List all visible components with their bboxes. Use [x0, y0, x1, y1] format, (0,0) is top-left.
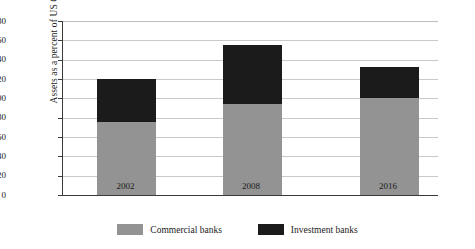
- bar-series-container: [63, 21, 438, 195]
- bar-group: [223, 21, 282, 195]
- x-axis-tick-label: 2016: [348, 181, 428, 191]
- y-axis-tick-label: 40: [0, 152, 6, 161]
- y-axis-tick-mark: [58, 137, 62, 138]
- legend-label-commercial-banks: Commercial banks: [150, 225, 222, 235]
- x-axis-tick-label: 2002: [86, 181, 166, 191]
- legend-swatch-commercial-banks: [117, 224, 143, 235]
- y-axis-tick-mark: [58, 195, 62, 196]
- bar-group: [97, 21, 156, 195]
- y-axis-tick-mark: [58, 176, 62, 177]
- y-axis-tick-label: 120: [0, 75, 6, 84]
- y-axis-tick-mark: [58, 156, 62, 157]
- y-axis-tick-label: 160: [0, 36, 6, 45]
- stacked-bar-chart: Assets as a percent of US GDP 1801601401…: [0, 0, 475, 249]
- y-axis-tick-label: 20: [0, 171, 6, 180]
- y-axis-tick-label: 60: [0, 133, 6, 142]
- bar-segment: [97, 79, 156, 122]
- legend-item-commercial-banks: Commercial banks: [117, 224, 222, 235]
- legend-label-investment-banks: Investment banks: [291, 225, 358, 235]
- bar-segment: [360, 67, 419, 98]
- y-axis-tick-label: 140: [0, 55, 6, 64]
- y-axis-tick-label: 0: [0, 191, 6, 200]
- y-axis-tick-mark: [58, 79, 62, 80]
- y-axis-tick-label: 180: [0, 17, 6, 26]
- plot-area: [62, 21, 438, 196]
- y-axis-tick-label: 80: [0, 113, 6, 122]
- bar-group: [360, 21, 419, 195]
- legend-swatch-investment-banks: [258, 224, 284, 235]
- y-axis-tick-mark: [58, 40, 62, 41]
- y-axis-tick-label: 100: [0, 94, 6, 103]
- y-axis-tick-mark: [58, 98, 62, 99]
- y-axis-title: Assets as a percent of US GDP: [49, 0, 59, 131]
- bar-segment: [223, 45, 282, 104]
- chart-legend: Commercial banks Investment banks: [0, 224, 475, 235]
- y-axis-tick-mark: [58, 21, 62, 22]
- x-axis-tick-label: 2008: [211, 181, 291, 191]
- y-axis-tick-mark: [58, 60, 62, 61]
- y-axis-title-wrapper: Assets as a percent of US GDP: [26, 18, 40, 196]
- y-axis-tick-mark: [58, 118, 62, 119]
- legend-item-investment-banks: Investment banks: [258, 224, 358, 235]
